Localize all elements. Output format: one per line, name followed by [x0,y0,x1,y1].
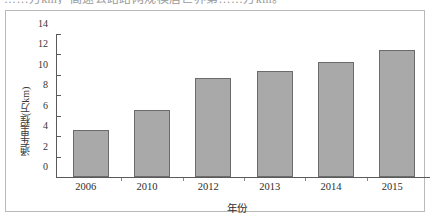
y-axis-tick-label: 8 [32,80,48,90]
y-axis-tick-label: 2 [32,142,48,152]
x-axis-title: 年份 [6,200,440,215]
x-axis-tick-label: 2015 [362,181,422,192]
bar [318,62,354,177]
cropped-text-remnant: ……万km，高速公路路网规模居世界第……万km。 [0,0,440,8]
y-axis-tick-mark [57,34,61,35]
y-axis-title: 通车里程(万km) [19,67,33,175]
x-axis-title-text: 年份 [205,203,247,214]
y-axis-tick-label: 4 [32,121,48,131]
bar [134,110,170,177]
y-axis-tick-mark [57,136,61,137]
y-axis-tick-mark [57,95,61,96]
y-axis-tick-label: 0 [32,162,48,172]
chart-frame: 通车里程(万km) 02468101214 200620102012201320… [5,10,425,212]
y-axis-tick-label: 12 [32,39,48,49]
x-axis-line [56,177,430,178]
x-axis-tick-label: 2010 [117,181,177,192]
y-axis-tick-label: 6 [32,101,48,111]
bar [195,78,231,177]
bar [379,50,415,177]
cropped-text-line: ……万km，高速公路路网规模居世界第……万km。 [4,0,284,7]
y-axis-tick-mark [57,157,61,158]
x-axis-tick-label: 2012 [178,181,238,192]
bar [73,130,109,177]
y-axis-tick-mark [57,54,61,55]
x-axis-tick-label: 2013 [240,181,300,192]
y-axis-tick-label: 10 [32,60,48,70]
x-axis-tick-label: 2014 [301,181,361,192]
y-axis-tick-mark [57,75,61,76]
y-axis-tick-label: 14 [32,19,48,29]
x-axis-tick-label: 2006 [56,181,116,192]
bar [257,71,293,177]
plot-area [56,34,424,177]
y-axis-tick-mark [57,116,61,117]
